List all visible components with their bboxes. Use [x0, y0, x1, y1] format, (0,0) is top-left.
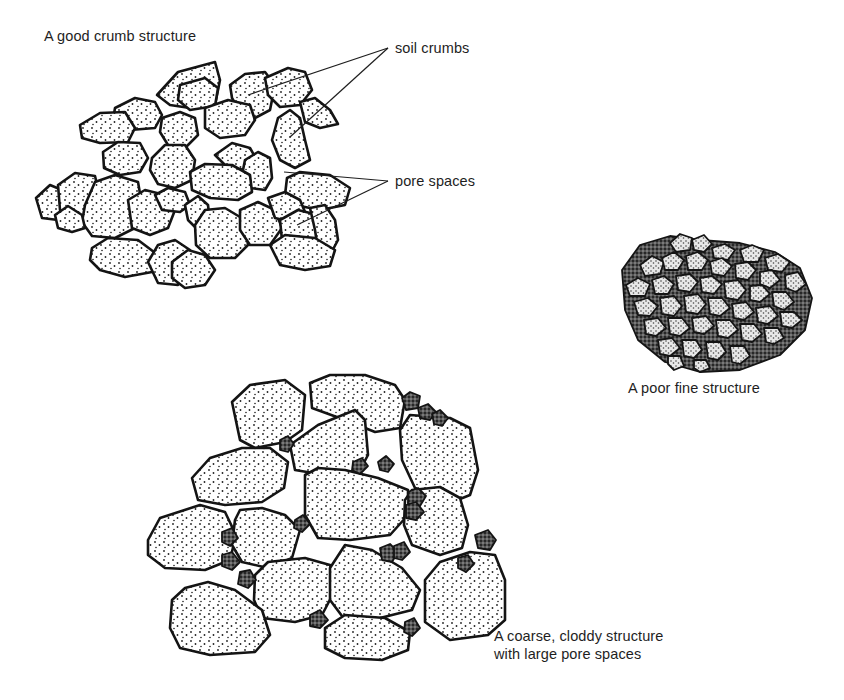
coarse-cloddy-structure-illustration [148, 375, 505, 660]
coarse-cloddy-structure-caption-line1: A coarse, cloddy structure [494, 628, 663, 645]
coarse-cloddy-structure-caption-line2: with large pore spaces [494, 646, 641, 663]
illustration-canvas [0, 0, 844, 700]
good-crumb-structure-illustration [36, 62, 350, 288]
soil-structure-diagram: A good crumb structure soil crumbs pore … [0, 0, 844, 700]
good-crumb-structure-caption: A good crumb structure [44, 28, 196, 45]
poor-fine-structure-caption: A poor fine structure [628, 380, 760, 397]
pore-spaces-label: pore spaces [395, 173, 475, 190]
poor-fine-structure-illustration [622, 234, 812, 372]
soil-crumbs-label: soil crumbs [395, 40, 469, 57]
